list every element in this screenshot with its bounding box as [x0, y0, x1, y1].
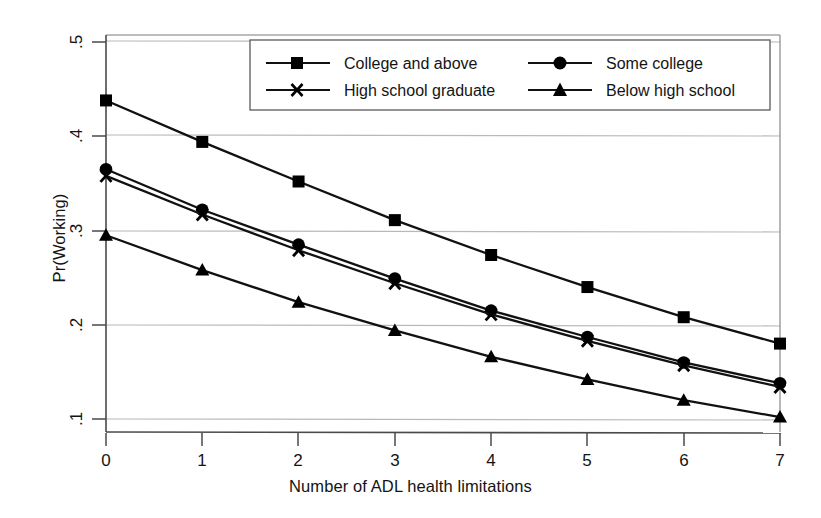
xtick-label-5: 5: [582, 451, 591, 470]
square-marker-icon: [485, 249, 497, 261]
y-axis-title: Pr(Working): [50, 138, 69, 338]
legend-label-some-college: Some college: [606, 55, 703, 72]
legend-label-high-school-graduate: High school graduate: [344, 82, 495, 99]
xtick-label-3: 3: [390, 451, 399, 470]
chart-figure: .5 .4 .3 .2 .1 0 1 2 3 4 5 6 7: [0, 0, 821, 518]
data-point: [293, 175, 305, 187]
data-point: [196, 136, 208, 148]
square-marker-icon: [293, 175, 305, 187]
y-axis-tick-labels: .5 .4 .3 .2 .1: [67, 35, 86, 426]
square-marker-icon: [581, 281, 593, 293]
square-marker-icon: [678, 311, 690, 323]
square-marker-icon: [291, 57, 303, 69]
legend-label-college-and-above: College and above: [344, 55, 478, 72]
x-axis-ticks: [106, 433, 780, 446]
chart-legend: College and above Some college High scho…: [250, 40, 770, 110]
data-point: [581, 281, 593, 293]
xtick-label-4: 4: [486, 451, 495, 470]
data-point: [389, 214, 401, 226]
circle-marker-icon: [554, 57, 567, 70]
ytick-label-0.4: .4: [67, 129, 86, 143]
data-point: [485, 249, 497, 261]
square-marker-icon: [100, 94, 112, 106]
square-marker-icon: [196, 136, 208, 148]
square-marker-icon: [774, 338, 786, 350]
xtick-label-6: 6: [679, 451, 688, 470]
ytick-label-0.1: .1: [67, 412, 86, 426]
data-point: [100, 94, 112, 106]
x-axis-line: [106, 432, 781, 433]
ytick-label-0.3: .3: [67, 224, 86, 238]
ytick-label-0.2: .2: [67, 318, 86, 332]
ytick-label-0.5: .5: [67, 35, 86, 49]
xtick-label-1: 1: [197, 451, 206, 470]
legend-box: [250, 40, 770, 110]
data-point: [774, 338, 786, 350]
xtick-label-0: 0: [101, 451, 110, 470]
line-chart-canvas: .5 .4 .3 .2 .1 0 1 2 3 4 5 6 7: [0, 0, 821, 518]
data-point: [678, 311, 690, 323]
x-axis-tick-labels: 0 1 2 3 4 5 6 7: [101, 451, 784, 470]
legend-label-below-high-school: Below high school: [606, 82, 735, 99]
x-axis-title: Number of ADL health limitations: [0, 477, 821, 496]
square-marker-icon: [389, 214, 401, 226]
xtick-label-2: 2: [293, 451, 302, 470]
xtick-label-7: 7: [775, 451, 784, 470]
